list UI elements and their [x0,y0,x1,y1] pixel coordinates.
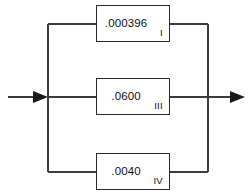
block-1-value: .000396 [97,17,169,29]
block-3-numeral: III [154,101,163,111]
output-arrow-icon [230,91,245,103]
block-1-numeral: I [160,28,163,38]
diagram-block-1: .000396 I [96,5,170,42]
input-arrow-icon [33,91,48,103]
block-4-numeral: IV [153,176,163,186]
diagram-block-3: .0600 III [96,78,170,115]
block-diagram: .000396 I .0600 III .0040 IV [0,0,252,196]
diagram-block-4: .0040 IV [96,153,170,190]
